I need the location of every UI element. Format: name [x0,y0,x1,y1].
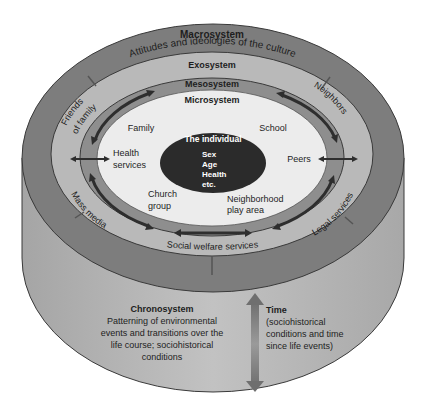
individual-trait-sex: Sex [202,150,217,159]
individual-trait-etc: etc. [202,180,216,189]
micro-item-peers: Peers [287,154,311,164]
micro-item-neighborhood-play-area-2: play area [227,205,264,215]
micro-item-neighborhood-play-area: Neighborhood [227,194,284,204]
exosystem-label: Exosystem [188,60,236,70]
chronosystem-desc-line-3: life course; sociohistorical [111,340,214,350]
micro-item-family: Family [128,123,155,133]
individual-trait-age: Age [202,160,218,169]
micro-item-church-group-2: group [148,201,171,211]
chronosystem-desc-line-1: Patterning of environmental [107,316,217,326]
time-desc-line-3: since life events) [266,341,333,351]
time-desc-line-1: (sociohistorical [266,317,326,327]
time-desc-line-2: conditions and time [266,329,344,339]
micro-item-health-services: Health [113,148,139,158]
time-label: Time [266,305,287,315]
micro-item-health-services-2: services [113,160,147,170]
microsystem-label: Microsystem [184,95,239,105]
chronosystem-label: Chronosystem [130,304,193,314]
mesosystem-label: Mesosystem [185,79,239,89]
individual-trait-health: Health [202,170,227,179]
chronosystem-desc-line-4: conditions [142,352,183,362]
chronosystem-desc-line-2: events and transitions over the [101,328,224,338]
ecological-systems-diagram: Macrosystem Attitudes and ideologies of … [0,0,425,411]
micro-item-church-group: Church [148,189,177,199]
micro-item-school: School [259,123,287,133]
individual-title: The individual [184,134,241,144]
